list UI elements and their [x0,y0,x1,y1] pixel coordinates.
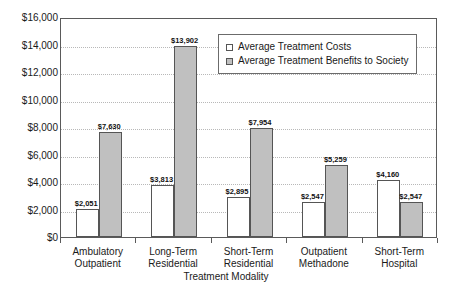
bar-value-label: $5,259 [324,156,347,164]
x-axis-tick [286,238,287,243]
x-axis-tick [362,238,363,243]
x-axis-tick [211,238,212,243]
legend-swatch-benefits-icon [226,58,233,65]
x-axis-category-label: OutpatientMethadone [299,246,349,270]
y-axis-tick-label: $2,000 [2,206,58,216]
y-axis-tick-label: $0 [2,233,58,243]
bar-value-label: $2,051 [75,200,98,208]
bar-value-label: $2,895 [226,188,249,196]
gridline [61,102,436,103]
bar-value-label: $4,160 [376,171,399,179]
y-axis-tick-label: $10,000 [2,96,58,106]
bar-costs [151,185,174,237]
x-axis-category-label: Long-TermResidential [148,246,197,270]
bar-value-label: $2,547 [399,193,422,201]
bar-costs [227,197,250,237]
x-axis-title: Treatment Modality [0,271,452,283]
gridline [61,74,436,75]
bar-value-label: $13,902 [171,37,198,45]
y-axis-tick-label: $12,000 [2,68,58,78]
bar-benefits [400,202,423,237]
legend-item-costs: Average Treatment Costs [226,40,408,54]
legend-label-benefits: Average Treatment Benefits to Society [238,55,408,67]
y-axis-tick-label: $4,000 [2,178,58,188]
bar-value-label: $7,630 [98,123,121,131]
y-axis: $0$2,000$4,000$6,000$8,000$10,000$12,000… [0,0,58,293]
bar-benefits [99,132,122,237]
bar-costs [377,180,400,237]
y-axis-tick-label: $6,000 [2,151,58,161]
legend-swatch-costs-icon [226,44,233,51]
bar-value-label: $2,547 [301,193,324,201]
legend-label-costs: Average Treatment Costs [238,41,351,53]
x-axis-tick [437,238,438,243]
x-axis-tick [60,238,61,243]
bar-costs [302,202,325,237]
y-axis-tick-label: $14,000 [2,41,58,51]
x-axis-tick [135,238,136,243]
bar-benefits [325,165,348,237]
chart-legend: Average Treatment Costs Average Treatmen… [218,34,417,74]
x-axis-category-label: Short-TermResidential [224,246,273,270]
bar-chart: $0$2,000$4,000$6,000$8,000$10,000$12,000… [0,0,452,293]
bar-value-label: $7,954 [249,119,272,127]
bar-benefits [174,46,197,237]
y-axis-tick-label: $16,000 [2,13,58,23]
y-axis-tick-label: $8,000 [2,123,58,133]
bar-costs [76,209,99,237]
bar-value-label: $3,813 [150,176,173,184]
x-axis-category-label: Short-TermHospital [375,246,424,270]
x-axis-category-label: AmbulatoryOutpatient [72,246,123,270]
bar-benefits [250,128,273,237]
legend-item-benefits: Average Treatment Benefits to Society [226,54,408,68]
